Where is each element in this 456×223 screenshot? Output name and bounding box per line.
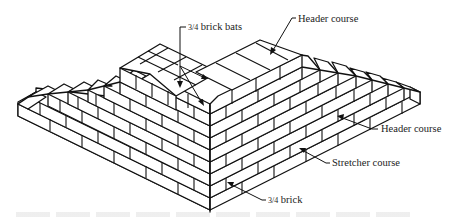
brick-corner-diagram: 3/4 brick bats Header course Header cour… — [0, 0, 456, 223]
brick-bats-text: brick bats — [198, 21, 242, 32]
stretcher-course-text: Stretcher course — [332, 157, 400, 168]
header-course-right-text: Header course — [381, 123, 442, 134]
svg-text:3/4 brick: 3/4 brick — [268, 194, 303, 205]
three-quarter-fraction: 3/4 — [268, 196, 278, 205]
three-quarter-text: brick — [278, 194, 303, 205]
header-course-top-text: Header course — [298, 13, 359, 24]
brick-bats-fraction: 3/4 — [188, 23, 198, 32]
svg-text:3/4 brick bats: 3/4 brick bats — [188, 21, 242, 32]
brick-corner-illustration: 3/4 brick bats Header course Header cour… — [0, 0, 456, 223]
faded-caption-remnant — [16, 212, 416, 217]
